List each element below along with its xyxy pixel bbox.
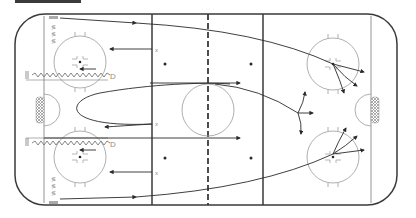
forward-marker-middle: x (155, 121, 158, 127)
zigzag-top: ≶ (51, 31, 56, 37)
left-top-faceoff-circle (54, 32, 106, 92)
forward-marker-bottom: x (155, 170, 158, 176)
rink-boards (15, 14, 397, 205)
neutral-dot (250, 63, 253, 66)
zigzag-bottom: ≶ (51, 176, 56, 182)
path-middle-loop-curve (77, 83, 230, 124)
defense-line-top (26, 71, 110, 80)
neutral-dot (250, 157, 253, 160)
path-middle-diagonal (215, 84, 298, 113)
path-bottom-long (60, 197, 136, 199)
defense-line-bottom (26, 138, 110, 146)
split-arrow-up (298, 92, 305, 113)
player-start-marker-top (49, 16, 58, 19)
zigzag-top: ≶ (51, 38, 56, 44)
right-goal-net-icon (371, 97, 379, 123)
neutral-dot (164, 63, 167, 66)
path-top-continue (136, 23, 333, 64)
left-goal-net-icon (36, 97, 44, 123)
zigzag-bottom: ≶ (51, 190, 56, 196)
drill-paths (44, 18, 364, 199)
defense-label-top: D (110, 72, 116, 81)
hockey-rink-diagram: ≶ ≶ ≶ ≶ ≶ ≶ D D x x x (0, 0, 416, 218)
forward-marker-top: x (155, 47, 158, 53)
zigzag-top: ≶ (51, 24, 56, 30)
split-arrow-down (298, 113, 301, 134)
left-bottom-faceoff-circle (54, 127, 106, 187)
neutral-dot (164, 157, 167, 160)
left-goal-crease (44, 94, 60, 126)
shot-arrow (333, 64, 344, 93)
path-bottom-continue (136, 154, 333, 197)
zigzag-bottom: ≶ (51, 183, 56, 189)
right-bottom-faceoff-circle (307, 127, 359, 187)
right-goal-crease (355, 94, 371, 126)
player-start-marker-bottom (49, 201, 58, 204)
defense-label-bottom: D (110, 140, 116, 149)
path-top-long (60, 18, 136, 23)
